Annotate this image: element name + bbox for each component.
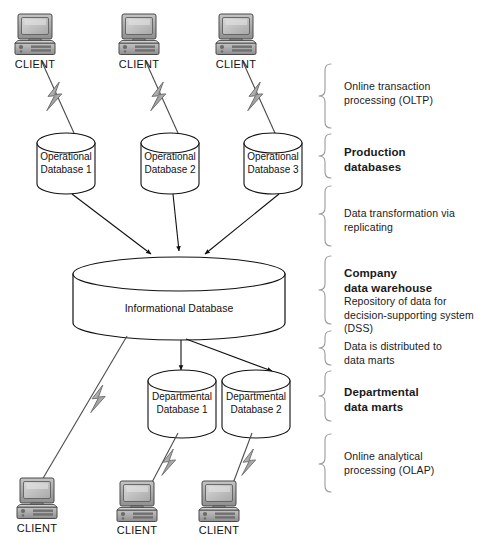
annotation-oltp-line2: processing (OLTP) — [344, 94, 476, 108]
client-bottom-3-label: CLIENT — [199, 524, 239, 536]
client-bottom-2: CLIENT — [117, 481, 157, 536]
operational-db-2-line2: Database 2 — [144, 164, 196, 175]
client-top-3-label: CLIENT — [216, 58, 256, 70]
client-bottom-1: CLIENT — [17, 478, 57, 534]
operational-db-1-line1: Operational — [40, 151, 92, 162]
client-bottom-3: CLIENT — [199, 481, 239, 536]
arrow-warehouse-to-departmental-2 — [186, 339, 272, 371]
brace-production-databases — [319, 134, 331, 178]
operational-db-3-line2: Database 3 — [247, 164, 299, 175]
operational-db-3-line1: Operational — [247, 151, 299, 162]
brace-departmental-data-marts — [319, 371, 331, 421]
bolt-icon-client-3 — [248, 82, 263, 111]
annotation-data-distributed: Data is distributed to data marts — [344, 340, 480, 367]
client-top-1: CLIENT — [15, 14, 55, 70]
annotation-production-databases: Production databases — [344, 145, 476, 174]
departmental-database-1: Departmental Database 1 — [148, 370, 216, 438]
bolt-icon-client-1 — [47, 82, 62, 111]
annotation-marts-line2: data marts — [344, 400, 480, 415]
operational-db-1-line2: Database 1 — [40, 164, 92, 175]
brace-olap — [319, 434, 331, 492]
annotation-warehouse-sub3: (DSS) — [344, 322, 480, 336]
annotation-production-line1: Production — [344, 145, 476, 160]
annotation-distributed-line2: data marts — [344, 354, 480, 368]
client-bottom-1-label: CLIENT — [17, 522, 57, 534]
bolt-icon-departmental-1-client — [162, 449, 176, 475]
annotation-data-transformation: Data transformation via replicating — [344, 207, 480, 234]
annotation-warehouse-sub1: Repository of data for — [344, 295, 480, 309]
departmental-database-2: Departmental Database 2 — [222, 370, 290, 438]
client-top-3: CLIENT — [216, 14, 256, 70]
link-warehouse-to-client-bottom-1 — [42, 336, 127, 480]
annotation-warehouse-line2: data warehouse — [344, 281, 480, 296]
annotation-transformation-line1: Data transformation via — [344, 207, 480, 221]
operational-database-2: Operational Database 2 — [141, 133, 199, 194]
annotation-departmental-data-marts: Departmental data marts — [344, 385, 480, 414]
annotation-olap-line1: Online analytical — [344, 450, 480, 464]
annotation-warehouse-sub2: decision-supporting system — [344, 309, 480, 323]
bolt-icon-warehouse-client — [91, 385, 105, 413]
warehouse-label: Informational Database — [125, 302, 234, 314]
annotation-marts-line1: Departmental — [344, 385, 480, 400]
annotation-production-line2: databases — [344, 160, 476, 175]
data-warehouse-diagram: Operational Database 1 Operational Datab… — [0, 0, 481, 539]
annotation-oltp-line1: Online transaction — [344, 80, 476, 94]
brace-data-distributed — [319, 331, 331, 365]
link-client-to-operational-1 — [42, 62, 78, 142]
departmental-db-1-line2: Database 1 — [156, 404, 208, 415]
arrow-operational-3-to-warehouse — [205, 194, 279, 254]
arrow-operational-2-to-warehouse — [173, 194, 179, 251]
link-departmental-1-to-client — [150, 433, 178, 486]
brace-data-transformation — [319, 186, 331, 246]
client-bottom-2-label: CLIENT — [117, 524, 157, 536]
client-top-2: CLIENT — [119, 14, 159, 70]
link-client-to-operational-3 — [243, 62, 279, 142]
brace-oltp — [319, 64, 331, 128]
departmental-db-1-line1: Departmental — [152, 391, 212, 402]
brace-company-data-warehouse — [319, 256, 331, 324]
annotation-transformation-line2: replicating — [344, 221, 480, 235]
operational-database-1: Operational Database 1 — [37, 133, 95, 194]
departmental-db-2-line2: Database 2 — [230, 404, 282, 415]
annotation-distributed-line1: Data is distributed to — [344, 340, 480, 354]
annotation-olap-line2: processing (OLAP) — [344, 464, 480, 478]
client-top-2-label: CLIENT — [119, 58, 159, 70]
annotation-warehouse-line1: Company — [344, 266, 480, 281]
annotation-olap: Online analytical processing (OLAP) — [344, 450, 480, 477]
link-client-to-operational-2 — [146, 62, 182, 142]
arrow-operational-1-to-warehouse — [72, 194, 151, 254]
bolt-icon-client-2 — [151, 82, 166, 111]
operational-database-3: Operational Database 3 — [244, 133, 302, 194]
annotation-oltp: Online transaction processing (OLTP) — [344, 80, 476, 107]
informational-database-warehouse: Informational Database — [73, 257, 285, 340]
operational-db-2-line1: Operational — [144, 151, 196, 162]
departmental-db-2-line1: Departmental — [226, 391, 286, 402]
client-top-1-label: CLIENT — [15, 58, 55, 70]
annotation-company-data-warehouse: Company data warehouse Repository of dat… — [344, 266, 480, 336]
